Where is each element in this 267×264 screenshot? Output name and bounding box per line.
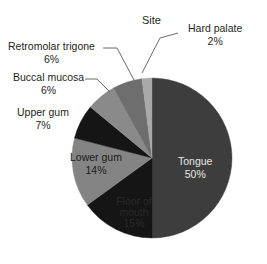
slice-label-retromolar-trigone: Retromolar trigone 6%: [8, 40, 95, 65]
slice-label-hard-palate-pct: 2%: [188, 35, 242, 48]
slice-label-lower-gum-pct: 14%: [70, 164, 122, 177]
slice-label-buccal-mucosa: Buccal mucosa 6%: [13, 71, 84, 96]
slice-label-tongue-name: Tongue: [178, 155, 212, 167]
slice-label-lower-gum: Lower gum 14%: [70, 151, 122, 176]
slice-label-floor-of-mouth-pct: 15%: [112, 218, 156, 229]
slice-label-buccal-mucosa-pct: 6%: [13, 84, 84, 97]
slice-label-hard-palate: Hard palate 2%: [188, 22, 242, 47]
slice-label-tongue-pct: 50%: [178, 168, 212, 181]
leader-line-retromolar-trigone: [103, 48, 134, 80]
slice-label-hard-palate-name: Hard palate: [188, 22, 242, 34]
slice-label-buccal-mucosa-name: Buccal mucosa: [13, 71, 84, 83]
leader-line-hard-palate: [142, 33, 178, 73]
pie-chart-figure: Site Hard palate 2% Retromolar trigone 6…: [0, 0, 267, 264]
slice-label-upper-gum-name: Upper gum: [17, 106, 69, 118]
slice-label-tongue: Tongue 50%: [178, 155, 212, 180]
slice-label-floor-of-mouth-name: Floor of mouth: [116, 195, 152, 218]
leader-line-buccal-mucosa: [85, 79, 110, 92]
slice-label-retromolar-trigone-pct: 6%: [8, 53, 95, 66]
slice-label-lower-gum-name: Lower gum: [70, 151, 122, 163]
chart-title: Site: [142, 14, 161, 26]
slice-label-upper-gum-pct: 7%: [17, 119, 69, 132]
slice-label-retromolar-trigone-name: Retromolar trigone: [8, 40, 95, 52]
slice-label-upper-gum: Upper gum 7%: [17, 106, 69, 131]
slice-label-floor-of-mouth: Floor of mouth 15%: [112, 196, 156, 229]
